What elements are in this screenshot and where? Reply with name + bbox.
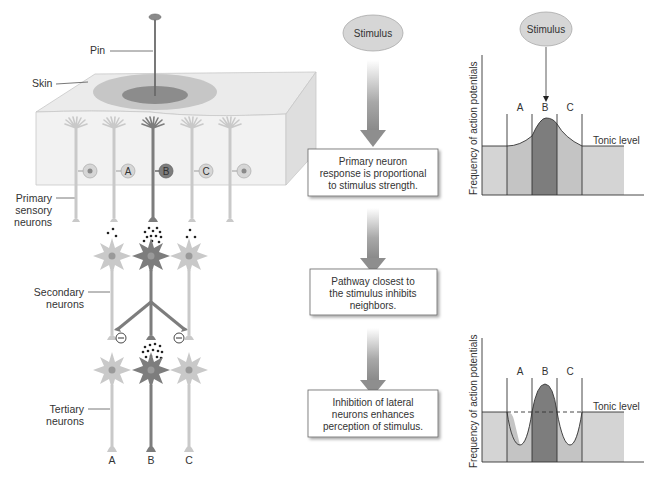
- region-a: A: [517, 102, 524, 113]
- flow-column: Stimulus Primary neuron response is prop…: [308, 15, 438, 437]
- region-a-bottom: A: [517, 366, 524, 377]
- receptor-label-a: A: [125, 166, 132, 177]
- skin-block: [36, 72, 316, 185]
- y-axis-label-bottom: Frequency of action potentials: [468, 335, 479, 468]
- chart-stimulus-label: Stimulus: [527, 24, 565, 35]
- label-skin: Skin: [32, 77, 53, 89]
- tertiary-neurons: A B C: [93, 352, 208, 466]
- label-tertiary-2: neurons: [46, 415, 84, 427]
- tonic-level-label: Tonic level: [593, 135, 640, 146]
- bottom-label-c: C: [185, 454, 193, 466]
- region-b: B: [542, 102, 549, 113]
- receptor-label-c: C: [202, 166, 209, 177]
- svg-text:the stimulus inhibits: the stimulus inhibits: [329, 288, 416, 299]
- label-pin: Pin: [90, 44, 105, 56]
- bottom-label-b: B: [147, 454, 154, 466]
- svg-text:neurons enhances: neurons enhances: [332, 409, 414, 420]
- flow-step-3: Inhibition of lateral neurons enhances p…: [308, 390, 438, 437]
- svg-text:Pathway closest to: Pathway closest to: [331, 276, 415, 287]
- svg-text:perception of stimulus.: perception of stimulus.: [323, 421, 423, 432]
- y-axis-label: Frequency of action potentials: [468, 62, 479, 195]
- receptor-label-b: B: [163, 166, 170, 177]
- svg-text:Primary neuron: Primary neuron: [339, 156, 407, 167]
- flow-arrow-1: [360, 60, 386, 147]
- flow-step-1: Primary neuron response is proportional …: [308, 149, 438, 196]
- label-primary-3: neurons: [14, 216, 52, 228]
- region-c: C: [566, 102, 573, 113]
- label-tertiary-1: Tertiary: [50, 403, 85, 415]
- flow-step-2: Pathway closest to the stimulus inhibits…: [310, 269, 437, 315]
- tonic-level-label-bottom: Tonic level: [593, 401, 640, 412]
- label-secondary-2: neurons: [46, 298, 84, 310]
- chart-bottom: A B C Tonic level Frequency of action po…: [468, 335, 644, 468]
- flow-arrow-3: [360, 328, 386, 396]
- svg-text:response is proportional: response is proportional: [320, 168, 427, 179]
- svg-text:neighbors.: neighbors.: [350, 300, 397, 311]
- lateral-inhibition-diagram: Pin Skin Primary sensory neurons Seconda…: [0, 0, 658, 479]
- svg-text:to stimulus strength.: to stimulus strength.: [328, 180, 417, 191]
- secondary-neurons: [93, 238, 208, 343]
- region-c-bottom: C: [566, 366, 573, 377]
- stimulus-label: Stimulus: [354, 28, 392, 39]
- flow-arrow-2: [360, 208, 386, 274]
- bottom-label-a: A: [108, 454, 115, 466]
- label-primary-2: sensory: [15, 204, 53, 216]
- region-b-bottom: B: [542, 366, 549, 377]
- svg-text:Inhibition of lateral: Inhibition of lateral: [332, 397, 413, 408]
- label-secondary-1: Secondary: [34, 286, 85, 298]
- chart-top: Stimulus A B C Tonic level Frequency of …: [468, 12, 644, 195]
- label-primary-1: Primary: [16, 192, 53, 204]
